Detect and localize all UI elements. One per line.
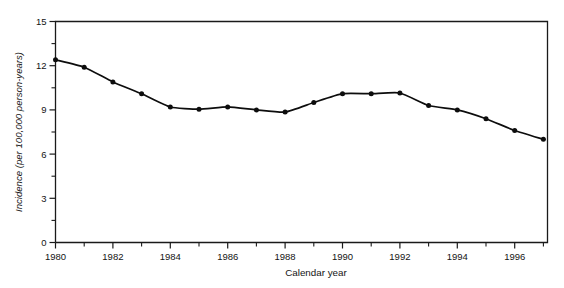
data-point [369, 91, 374, 96]
data-point [484, 116, 489, 121]
y-tick-label: 3 [41, 193, 46, 204]
data-point [455, 107, 460, 112]
data-point [110, 79, 115, 84]
y-axis-title: Incidence (per 100,000 person-years) [13, 52, 24, 212]
data-point [254, 107, 259, 112]
data-point [283, 110, 288, 115]
data-point [512, 128, 517, 133]
data-point [311, 100, 316, 105]
y-tick-label: 15 [36, 16, 47, 27]
data-point [340, 91, 345, 96]
x-tick-label: 1984 [160, 251, 181, 262]
x-tick-label: 1988 [275, 251, 296, 262]
x-axis-title: Calendar year [285, 267, 347, 278]
x-tick-label: 1996 [504, 251, 525, 262]
data-point [168, 104, 173, 109]
chart-figure: 03691215 1980198219841986198819901992199… [0, 0, 564, 288]
y-tick-label: 0 [41, 237, 46, 248]
data-point [82, 65, 87, 70]
x-tick-label: 1990 [332, 251, 353, 262]
data-point [397, 90, 402, 95]
data-point [225, 104, 230, 109]
incidence-line-chart: 03691215 1980198219841986198819901992199… [0, 0, 564, 288]
data-point [197, 107, 202, 112]
x-tick-label: 1994 [447, 251, 468, 262]
data-point [139, 91, 144, 96]
data-point [53, 57, 58, 62]
data-point [426, 103, 431, 108]
y-tick-label: 9 [41, 104, 46, 115]
y-tick-label: 12 [36, 60, 47, 71]
x-tick-label: 1982 [102, 251, 123, 262]
x-axis-tick-labels: 198019821984198619881990199219941996 [45, 251, 525, 262]
x-tick-label: 1992 [389, 251, 410, 262]
x-tick-label: 1986 [217, 251, 238, 262]
x-tick-label: 1980 [45, 251, 66, 262]
y-tick-label: 6 [41, 149, 46, 160]
data-point [541, 137, 546, 142]
